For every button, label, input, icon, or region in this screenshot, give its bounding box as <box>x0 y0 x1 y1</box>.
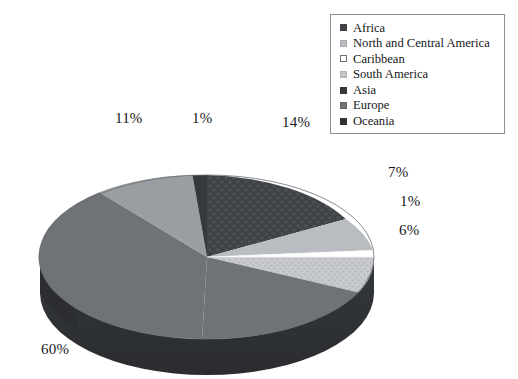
legend-swatch-africa <box>340 24 347 31</box>
legend-item-north-and-central-america[interactable]: North and Central America <box>337 36 498 52</box>
legend-swatch-south-america <box>340 71 347 78</box>
legend-label-asia: Asia <box>353 84 376 97</box>
legend-swatch-caribbean <box>340 55 347 62</box>
label-oceania-percent: 60% <box>41 341 69 358</box>
legend-label-europe: Europe <box>353 99 389 112</box>
label-south-america-percent: 6% <box>399 222 419 239</box>
legend-swatch-north-and-central-america <box>340 40 347 47</box>
legend-swatch-oceania <box>340 118 347 125</box>
label-europe-percent: 11% <box>115 110 143 127</box>
legend-item-caribbean[interactable]: Caribbean <box>337 51 498 67</box>
legend-item-oceania[interactable]: Oceania <box>337 114 498 130</box>
legend-label-oceania: Oceania <box>353 115 394 128</box>
label-asia-percent: 1% <box>192 110 212 127</box>
legend-label-north-and-central-america: North and Central America <box>353 37 490 50</box>
chart-legend: Africa North and Central America Caribbe… <box>330 14 505 134</box>
label-north-central-america-percent: 7% <box>388 164 408 181</box>
legend-label-africa: Africa <box>353 22 385 35</box>
legend-item-south-america[interactable]: South America <box>337 67 498 83</box>
legend-item-asia[interactable]: Asia <box>337 82 498 98</box>
legend-swatch-europe <box>340 102 347 109</box>
legend-label-south-america: South America <box>353 68 428 81</box>
legend-label-caribbean: Caribbean <box>353 53 405 66</box>
legend-item-africa[interactable]: Africa <box>337 20 498 36</box>
legend-item-europe[interactable]: Europe <box>337 98 498 114</box>
label-africa-percent: 14% <box>282 114 310 131</box>
chart-canvas: 1% 14% 7% 1% 6% 11% 60% Africa North and… <box>0 0 518 379</box>
legend-swatch-asia <box>340 87 347 94</box>
label-caribbean-percent: 1% <box>400 193 420 210</box>
